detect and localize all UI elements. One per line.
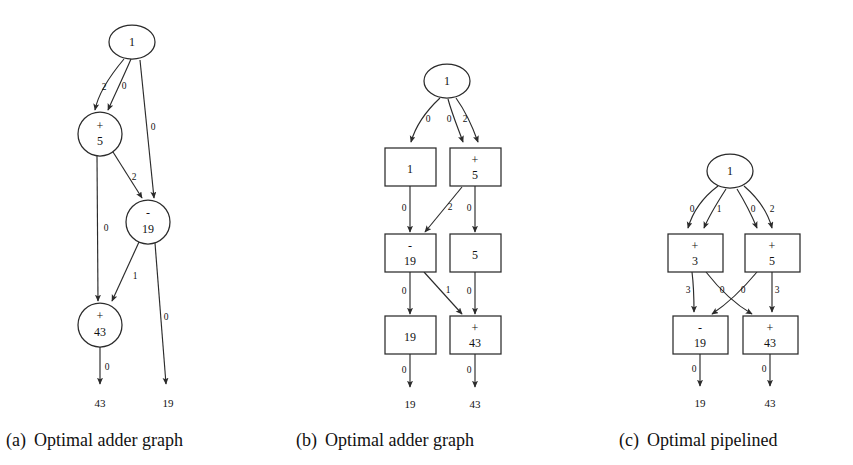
terminal-out19-b: 19	[405, 398, 417, 410]
edge-label-input-add3-c1: 0	[690, 204, 695, 214]
edge-label-input-sub19: 0	[151, 122, 156, 132]
edge-label-input-add5-a: 2	[102, 82, 107, 92]
edge-label-add43-out43-b: 0	[467, 365, 472, 375]
caption-panel-a: (a)Optimal adder graph	[6, 430, 183, 451]
edge-label-input-reg1-b: 0	[426, 114, 431, 124]
node-input-c-label: 1	[727, 164, 733, 178]
node-sub19-c-value: 19	[694, 336, 706, 350]
edge-label-input-add3-c2: 1	[717, 204, 722, 214]
panel-c: 1 + 3 + 5 - 19 + 43 0 1 0 2 3 0 0 3 0 0 …	[668, 154, 800, 409]
node-add3-c-value: 3	[692, 254, 698, 268]
edge-label-reg5-add43-b: 0	[467, 286, 472, 296]
edge-input-to-add5-b	[108, 59, 131, 110]
terminal-out43-b: 43	[470, 398, 482, 410]
edge-add3-to-sub19-c	[692, 272, 694, 312]
node-sub19-a-op: -	[146, 206, 150, 220]
caption-c-text: Optimal pipelined	[647, 430, 777, 450]
caption-a-tag: (a)	[6, 430, 26, 450]
edge-label-reg1-sub19-b: 0	[402, 203, 407, 213]
node-add5-b-value: 5	[472, 168, 478, 182]
node-add43-b-op: +	[472, 321, 479, 335]
node-add43-c-op: +	[767, 321, 774, 335]
node-add43-b-value: 43	[469, 336, 481, 350]
node-reg19-b-label: 19	[404, 330, 416, 344]
edge-label-sub19-out19: 0	[164, 312, 169, 322]
terminal-out19-c: 19	[695, 397, 707, 409]
node-add3-c-op: +	[692, 239, 699, 253]
node-add5-a-value: 5	[97, 134, 103, 148]
node-sub19-b-op: -	[408, 239, 412, 253]
node-add43-c-value: 43	[764, 336, 776, 350]
node-add5-a-op: +	[97, 119, 104, 133]
adder-graph-figure: 1 + 5 - 19 + 43 2 0 0 0 2 1 0 0 43 19	[0, 0, 853, 465]
terminal-out43-a: 43	[95, 397, 107, 409]
caption-a-text: Optimal adder graph	[34, 430, 183, 450]
node-add43-a-value: 43	[94, 325, 106, 339]
edge-label-input-add5-c2: 2	[770, 204, 775, 214]
node-sub19-c-op: -	[698, 321, 702, 335]
edge-label-sub19-add43: 1	[133, 271, 138, 281]
panel-b: 1 1 + 5 - 19 5 19 + 43 0 0 2 0 2 0 0 1 0…	[385, 64, 501, 410]
edge-label-add5-sub19-b: 2	[448, 202, 453, 212]
terminal-out19-a: 19	[163, 397, 175, 409]
edge-label-reg19-out19-b: 0	[402, 365, 407, 375]
edge-label-input-add5-b1: 0	[447, 114, 452, 124]
caption-panel-b: (b)Optimal adder graph	[296, 430, 474, 451]
node-input-a-label: 1	[129, 35, 135, 49]
node-add43-a-op: +	[97, 309, 104, 323]
edge-sub19-to-add43-b	[424, 272, 462, 314]
caption-b-text: Optimal adder graph	[325, 430, 474, 450]
edge-label-input-add5-b2: 2	[463, 114, 468, 124]
node-add5-b-op: +	[472, 153, 479, 167]
edge-label-add3-add43-c: 0	[720, 285, 725, 295]
node-add5-c-value: 5	[769, 254, 775, 268]
node-sub19-a-value: 19	[142, 222, 154, 236]
edge-label-sub19-reg19-b: 0	[402, 286, 407, 296]
edge-label-add5-sub19: 2	[132, 172, 137, 182]
terminal-out43-c: 43	[765, 397, 777, 409]
edge-label-input-add5-c1: 0	[751, 204, 756, 214]
edge-add5-to-sub19	[113, 152, 142, 198]
edge-label-input-add5-b: 0	[122, 81, 127, 91]
edge-label-add43-out43-c: 0	[762, 364, 767, 374]
edge-label-sub19-out19-c: 0	[692, 364, 697, 374]
edge-add5-to-sub19-b	[425, 187, 462, 232]
edge-label-add5-add43-c: 3	[775, 285, 780, 295]
node-reg1-b-label: 1	[407, 162, 413, 176]
edge-label-add5-reg5-b: 0	[467, 203, 472, 213]
edge-label-sub19-add43-b: 1	[446, 285, 451, 295]
node-add5-c-op: +	[769, 239, 776, 253]
node-reg5-b-label: 5	[472, 248, 478, 262]
node-sub19-b-value: 19	[404, 254, 416, 268]
edge-add5-to-add43	[97, 156, 98, 301]
panel-a: 1 + 5 - 19 + 43 2 0 0 0 2 1 0 0 43 19	[78, 25, 174, 409]
caption-b-tag: (b)	[296, 430, 317, 450]
caption-c-tag: (c)	[619, 430, 639, 450]
edge-input-to-add5-c2	[744, 186, 772, 228]
figure-container: 1 + 5 - 19 + 43 2 0 0 0 2 1 0 0 43 19	[0, 0, 853, 465]
edge-label-add5-sub19-c: 0	[741, 285, 746, 295]
edge-label-add5-add43: 0	[104, 223, 109, 233]
node-input-b-label: 1	[444, 74, 450, 88]
edge-label-add3-sub19-c: 3	[686, 285, 691, 295]
caption-panel-c: (c)Optimal pipelined	[619, 430, 777, 451]
edge-label-add43-out43: 0	[105, 362, 110, 372]
